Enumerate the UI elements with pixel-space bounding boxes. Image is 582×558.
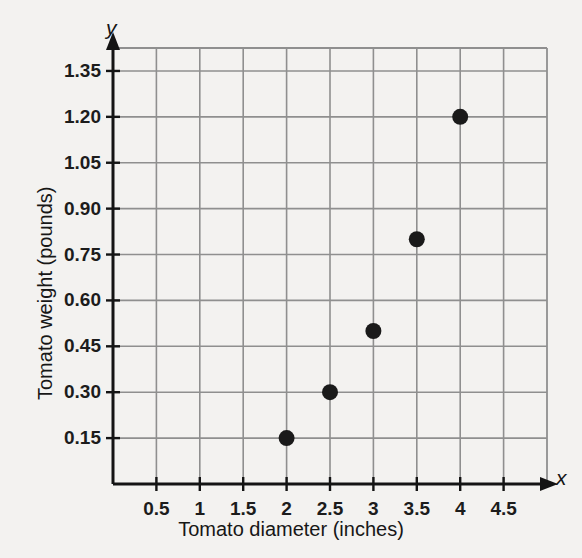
x-axis-title: Tomato diameter (inches): [0, 518, 582, 541]
data-point: [279, 430, 295, 446]
x-tick-label: 2.5: [317, 498, 343, 520]
x-tick-label: 3.5: [404, 498, 430, 520]
plot-canvas: [0, 0, 582, 558]
x-tick-label: 4: [455, 498, 466, 520]
data-point: [409, 231, 425, 247]
y-axis-variable-label: y: [106, 16, 117, 40]
x-tick-label: 1: [195, 498, 206, 520]
y-tick-label: 0.15: [40, 427, 101, 449]
data-point: [322, 384, 338, 400]
data-point: [452, 109, 468, 125]
data-point: [365, 323, 381, 339]
x-tick-label: 2: [281, 498, 292, 520]
scatter-plot-figure: 0.150.300.450.600.750.901.051.201.35 0.5…: [0, 0, 582, 558]
x-tick-label: 4.5: [490, 498, 516, 520]
x-tick-label: 0.5: [143, 498, 169, 520]
axis-lines: [106, 32, 558, 491]
y-axis-title: Tomato weight (pounds): [34, 187, 57, 400]
y-tick-label: 1.35: [40, 60, 101, 82]
gridlines: [113, 48, 547, 484]
x-axis-variable-label: x: [556, 466, 567, 490]
y-tick-label: 1.20: [40, 106, 101, 128]
axis-ticks: [106, 71, 504, 491]
x-tick-label: 1.5: [230, 498, 256, 520]
x-tick-label: 3: [368, 498, 379, 520]
y-tick-label: 1.05: [40, 152, 101, 174]
